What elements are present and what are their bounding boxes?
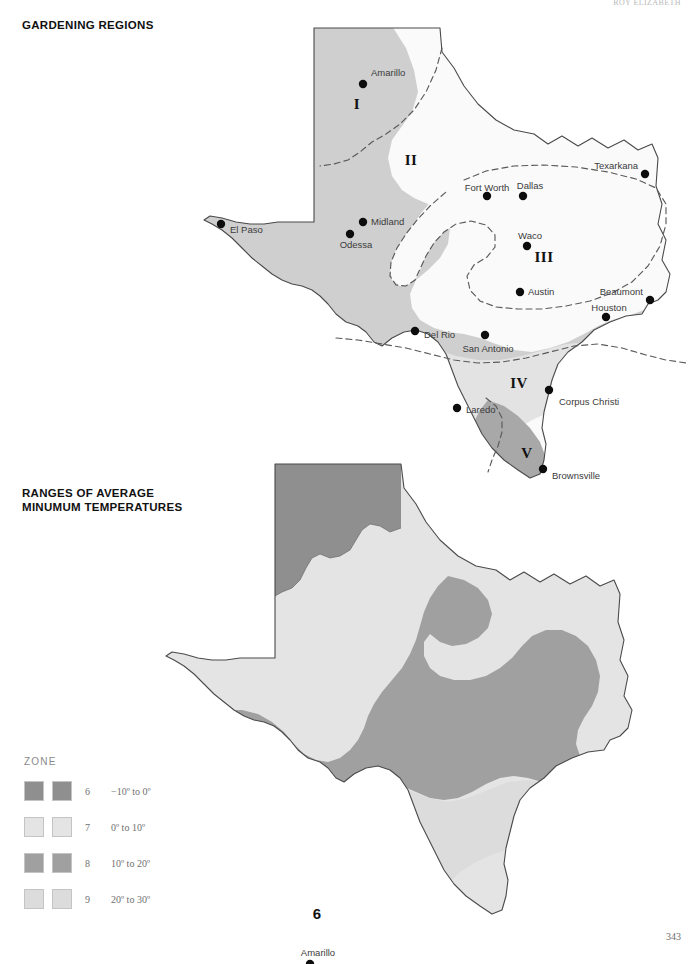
legend-range-label: 0º to 10º [111, 822, 145, 833]
city-label: Houston [591, 302, 626, 313]
running-header: ROY ELIZABETH [613, 0, 681, 7]
legend-zone-number: 6 [85, 786, 111, 797]
city-label: San Antonio [462, 343, 513, 354]
legend-swatch-pattern [52, 817, 72, 837]
gardening-regions-map: IIIIIIIVV AmarilloTexarkanaFort WorthDal… [196, 8, 693, 488]
legend-row: 920º to 30º [24, 888, 224, 910]
city-label: Corpus Christi [559, 396, 619, 407]
legend-swatch-solid [24, 817, 44, 837]
city-dot [483, 192, 491, 200]
gardening-region-fills [196, 8, 693, 488]
city-dot [453, 404, 461, 412]
city-label: Del Rio [424, 329, 455, 340]
city-label: Fort Worth [465, 182, 510, 193]
legend-row: 70º to 10º [24, 816, 224, 838]
city-dot [411, 327, 419, 335]
city-dot [519, 192, 527, 200]
city-dot [602, 313, 610, 321]
city-label: Dallas [517, 180, 544, 191]
city-label: Texarkana [594, 160, 639, 171]
city-label: Midland [371, 216, 404, 227]
city-label: Austin [528, 286, 554, 297]
region-number: 6 [313, 905, 321, 922]
region-number: I [354, 96, 360, 112]
city-label: Odessa [340, 239, 373, 250]
city-dot [346, 230, 354, 238]
legend-zone-number: 9 [85, 894, 111, 905]
legend-swatch-solid [24, 853, 44, 873]
gardening-regions-title: GARDENING REGIONS [22, 18, 154, 32]
legend-range-label: −10º to 0º [111, 786, 151, 797]
legend-zone-number: 8 [85, 858, 111, 869]
zone-legend: ZONE 6−10º to 0º70º to 10º810º to 20º920… [24, 756, 224, 924]
city-dot [646, 296, 654, 304]
region-number: II [405, 152, 418, 168]
city-label: Amarillo [371, 67, 405, 78]
legend-swatch-pattern [52, 889, 72, 909]
city-dot [545, 386, 553, 394]
page-canvas: ROY ELIZABETH GARDENING REGIONS RANGES O… [0, 0, 699, 964]
legend-swatch-pattern [52, 781, 72, 801]
zone-9-fill [270, 780, 592, 922]
city-label: El Paso [230, 224, 263, 235]
legend-row: 6−10º to 0º [24, 780, 224, 802]
city-label: Laredo [466, 404, 496, 415]
region-number: III [534, 249, 553, 265]
legend-rows: 6−10º to 0º70º to 10º810º to 20º920º to … [24, 780, 224, 910]
city-dot [516, 288, 524, 296]
legend-swatch-solid [24, 781, 44, 801]
legend-swatch-pattern [52, 853, 72, 873]
city-dot [359, 218, 367, 226]
city-dot [306, 960, 314, 964]
legend-range-label: 10º to 20º [111, 858, 150, 869]
legend-row: 810º to 20º [24, 852, 224, 874]
city-dot [359, 80, 367, 88]
city-dot [641, 170, 649, 178]
city-label: Beaumont [600, 286, 644, 297]
city-label: Amarillo [301, 947, 335, 958]
city-dot [481, 331, 489, 339]
region-number: IV [510, 375, 528, 391]
legend-swatch-solid [24, 889, 44, 909]
zone-cities: AmarilloTexarkanaFort WorthDallasMidland… [140, 947, 602, 964]
page-number: 343 [666, 931, 681, 942]
legend-title: ZONE [24, 756, 224, 767]
legend-zone-number: 7 [85, 822, 111, 833]
city-label: Waco [518, 230, 542, 241]
legend-range-label: 20º to 30º [111, 894, 150, 905]
city-dot [217, 220, 225, 228]
city-dot [523, 242, 531, 250]
